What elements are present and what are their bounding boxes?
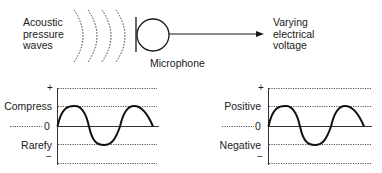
plus-sign: + xyxy=(258,83,264,93)
negative-label: Negative xyxy=(220,139,261,151)
plus-sign: + xyxy=(47,83,53,93)
minus-sign: − xyxy=(46,152,52,162)
compress-label: Compress xyxy=(4,100,52,112)
voltage-sine-curve xyxy=(269,106,365,145)
microphone-label: Microphone xyxy=(150,58,205,70)
arrow-right-icon xyxy=(169,31,264,37)
varying-voltage-label: Varying electrical voltage xyxy=(273,17,314,52)
wave-arc-2 xyxy=(88,10,97,62)
rarefy-label: Rarefy xyxy=(21,139,52,151)
zero-label: 0 xyxy=(44,120,50,132)
pressure-sine-curve xyxy=(58,106,154,145)
acoustic-pressure-waves-label: Acoustic pressure waves xyxy=(23,17,64,52)
positive-label: Positive xyxy=(224,100,261,112)
label-line: Acoustic xyxy=(23,17,64,29)
wave-arc-4 xyxy=(116,10,125,62)
label-line: voltage xyxy=(273,40,314,52)
pressure-wave-arcs xyxy=(74,10,125,62)
label-line: Varying xyxy=(273,17,314,29)
zero-label: 0 xyxy=(255,120,261,132)
label-line: waves xyxy=(23,40,64,52)
minus-sign: − xyxy=(257,152,263,162)
wave-arc-1 xyxy=(74,10,83,62)
wave-arc-3 xyxy=(102,10,111,62)
microphone-icon xyxy=(136,17,169,52)
